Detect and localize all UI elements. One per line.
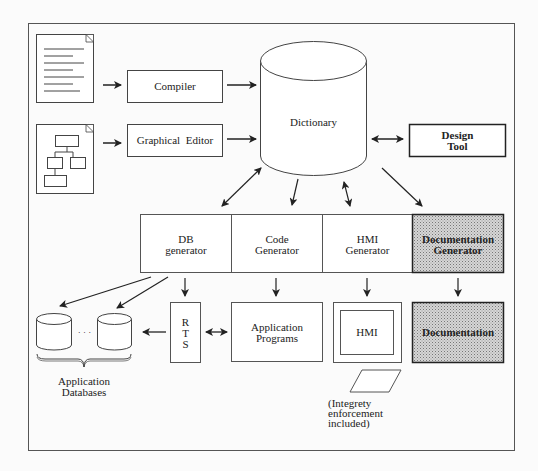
arrow-dictionary-docgen — [382, 168, 422, 206]
documentation-generator-label-2: Generator — [412, 244, 504, 256]
arrow-dbgen-database-1 — [60, 277, 151, 306]
dictionary-cylinder — [261, 42, 367, 176]
integrity-note-3: included) — [328, 417, 418, 429]
rts-label-3: S — [170, 338, 201, 350]
text-document-icon — [37, 35, 94, 103]
design-tool-label-2: Tool — [409, 140, 506, 152]
hmi-generator-label-2: Generator — [322, 244, 413, 256]
databases-ellipsis: · · · — [72, 326, 97, 338]
compiler-label: Compiler — [127, 80, 223, 92]
arrow-dictionary-codegen — [292, 179, 298, 205]
db-generator-label-2: generator — [140, 244, 232, 256]
documentation-label: Documentation — [412, 326, 504, 338]
application-database-2 — [98, 314, 132, 351]
hmi-label: HMI — [340, 326, 394, 338]
keyboard-shape — [350, 370, 401, 392]
code-generator-label-2: Generator — [231, 244, 323, 256]
application-database-1 — [37, 314, 72, 351]
dictionary-label: Dictionary — [260, 116, 367, 128]
hmi-monitor — [334, 303, 402, 393]
arrow-dictionary-hmigen — [344, 182, 350, 206]
graphical-editor-label: Graphical Editor — [127, 134, 223, 146]
databases-brace — [37, 354, 131, 367]
arrow-dbgen-database-2 — [117, 277, 168, 308]
application-programs-label-2: Programs — [231, 332, 323, 344]
arrow-dictionary-dbgen — [222, 168, 261, 206]
application-databases-label-2: Databases — [44, 386, 124, 398]
graphic-document-icon — [37, 125, 94, 194]
